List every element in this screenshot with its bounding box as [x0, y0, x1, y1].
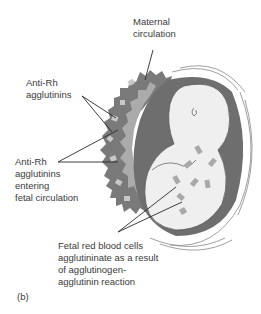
- label-anti-rh-agglutinins: Anti-Rh agglutinins: [26, 77, 71, 101]
- panel-label: (b): [17, 291, 29, 303]
- label-maternal-circulation: Maternal circulation: [133, 16, 176, 40]
- label-fetal-rbc: Fetal red blood cells agglutininate as a…: [58, 240, 158, 288]
- label-anti-rh-entering: Anti-Rh agglutinins entering fetal circu…: [15, 156, 78, 204]
